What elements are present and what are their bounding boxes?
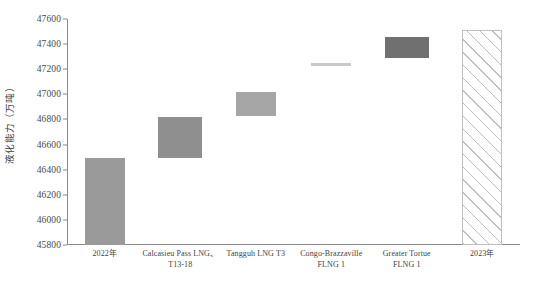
y-tick-label: 47600 <box>37 14 61 24</box>
bar-4 <box>311 63 351 66</box>
bar-5 <box>385 37 429 58</box>
bar-2 <box>158 117 202 158</box>
x-label-line: FLNG 1 <box>358 259 456 270</box>
y-axis-title: 液化能力（万吨） <box>0 0 18 245</box>
y-tick-label: 46600 <box>37 140 61 150</box>
waterfall-chart: 液化能力（万吨） 4760047400472004700046800466004… <box>0 0 534 288</box>
y-tick-label: 47400 <box>37 39 61 49</box>
bar-3 <box>236 92 276 116</box>
x-label-line: T13-18 <box>132 259 230 270</box>
bar-1 <box>85 158 125 245</box>
y-tick-label: 47000 <box>37 89 61 99</box>
y-tick-label: 47200 <box>37 64 61 74</box>
y-tick-label: 46000 <box>37 215 61 225</box>
x-axis-category-labels: 2022年Calcasieu Pass LNG、T13-18Tangguh LN… <box>67 248 520 288</box>
x-label-line: 2023年 <box>434 248 532 259</box>
x-label-6: 2023年 <box>434 248 532 259</box>
y-axis-title-text: 液化能力（万吨） <box>2 82 16 164</box>
y-tick-label: 46800 <box>37 114 61 124</box>
y-axis-tick-labels: 4760047400472004700046800466004640046200… <box>18 0 65 260</box>
y-tick-label: 46400 <box>37 165 61 175</box>
bar-6 <box>462 30 502 245</box>
bars-layer <box>67 19 520 245</box>
plot-area <box>67 19 520 245</box>
y-tick-label: 46200 <box>37 190 61 200</box>
